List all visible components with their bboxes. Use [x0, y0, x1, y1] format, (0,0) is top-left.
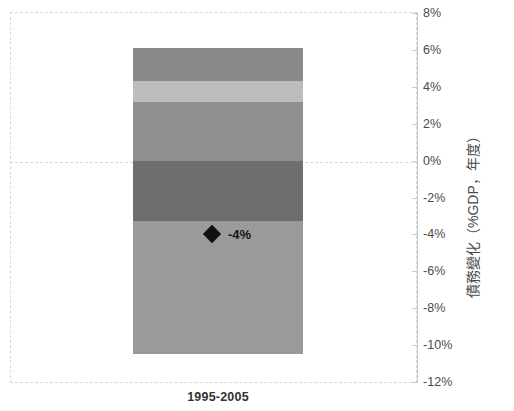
y-axis-title: 債務變化（%GDP，年度） [462, 98, 482, 298]
y-axis-tick-label: -12% [423, 375, 453, 389]
y-axis-tick [412, 382, 417, 383]
y-axis-tick-label: 4% [423, 80, 441, 94]
y-axis-tick [412, 124, 417, 125]
y-axis-tick [412, 161, 417, 162]
y-axis-tick [412, 345, 417, 346]
y-axis-tick-label: -6% [423, 264, 446, 278]
y-axis-tick [412, 50, 417, 51]
y-axis-tick-label: 2% [423, 117, 441, 131]
stacked-bar-1995-2005[interactable] [133, 48, 303, 354]
y-axis-tick-label: -8% [423, 301, 446, 315]
y-axis-tick [412, 13, 417, 14]
y-axis-tick-label: -10% [423, 338, 453, 352]
bar-segment-segment-4[interactable] [133, 161, 303, 222]
y-axis-tick-label: 6% [423, 43, 441, 57]
bar-segment-segment-3[interactable] [133, 102, 303, 161]
y-axis-tick [412, 308, 417, 309]
marker-value-label: -4% [228, 227, 251, 242]
bar-segment-segment-2[interactable] [133, 81, 303, 101]
y-axis-tick [412, 271, 417, 272]
y-axis-line [417, 12, 418, 383]
y-axis-tick-label: -4% [423, 227, 446, 241]
bar-segment-segment-5[interactable] [133, 221, 303, 354]
x-axis-category-label: 1995-2005 [133, 390, 303, 404]
bar-segment-segment-1[interactable] [133, 48, 303, 81]
y-axis-tick [412, 234, 417, 235]
y-axis-tick [412, 198, 417, 199]
y-axis-tick-label: 8% [423, 6, 441, 20]
debt-change-stacked-bar-chart: 8%6%4%2%0%-2%-4%-6%-8%-10%-12% 債務變化（%GDP… [0, 0, 514, 411]
y-axis-tick-label: 0% [423, 154, 441, 168]
y-axis-tick [412, 87, 417, 88]
y-axis-tick-label: -2% [423, 191, 446, 205]
